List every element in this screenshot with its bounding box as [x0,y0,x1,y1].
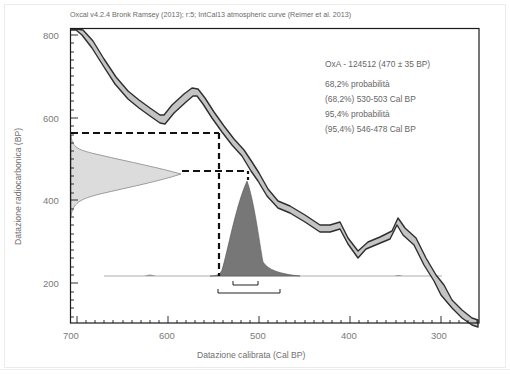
range-68-label: (68,2%) 530-503 Cal BP [325,94,416,104]
y-tick-label: 600 [43,113,59,124]
radiocarbon-distribution [71,135,181,216]
range-bracket-68 [233,281,258,285]
sample-label: OxA - 124512 (470 ± 35 BP) [325,59,430,69]
minor-peak [394,275,403,276]
y-tick-label: 800 [43,30,59,41]
range-bracket-95 [218,289,280,293]
calibrated-distribution [210,181,300,276]
chart-title: Oxcal v4.2.4 Bronk Ramsey (2013); r:5; I… [70,10,351,19]
x-axis-ticks [77,316,477,323]
prob-68-label: 68,2% probabilità [325,79,390,89]
range-95-label: (95,4%) 546-478 Cal BP [325,124,416,134]
y-axis-label: Datazione radiocarbonica (BP) [13,128,23,245]
x-axis-label: Datazione calibrata (Cal BP) [197,350,306,360]
y-tick-label: 400 [43,195,59,206]
prob-95-label: 95,4% probabilità [325,109,390,119]
x-tick-label: 500 [250,330,266,341]
x-tick-label: 600 [159,330,175,341]
x-tick-label: 400 [341,330,357,341]
x-tick-label: 700 [63,330,79,341]
minor-peak [144,275,156,277]
calibration-chart: Oxcal v4.2.4 Bronk Ramsey (2013); r:5; I… [0,0,510,379]
x-tick-label: 300 [431,330,447,341]
y-tick-label: 200 [43,278,59,289]
